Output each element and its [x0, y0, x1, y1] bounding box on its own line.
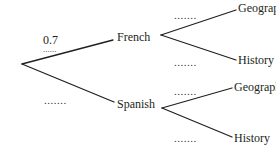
node-spanish-geography: Geography	[234, 81, 276, 93]
probability-french-geography-blank[interactable]: .......	[174, 11, 197, 19]
probability-spanish-geography-blank[interactable]: .......	[174, 87, 197, 95]
node-spanish: Spanish	[117, 98, 155, 110]
branch-root-french	[22, 40, 113, 64]
probability-spanish-blank[interactable]: .......	[44, 96, 67, 104]
branch-root-spanish	[22, 64, 114, 102]
node-french-history: History	[238, 54, 274, 66]
branch-spanish-geography	[162, 88, 232, 108]
branch-spanish-history	[162, 108, 232, 137]
branch-french-geography	[161, 10, 236, 35]
probability-spanish-history-blank[interactable]: .......	[174, 134, 197, 142]
probability-french-underline: ......	[43, 46, 57, 52]
probability-french-history-blank[interactable]: .......	[174, 58, 197, 66]
node-french: French	[117, 31, 150, 43]
node-french-geography: Geography	[238, 2, 276, 14]
node-spanish-history: History	[234, 132, 270, 144]
branch-french-history	[161, 35, 236, 60]
